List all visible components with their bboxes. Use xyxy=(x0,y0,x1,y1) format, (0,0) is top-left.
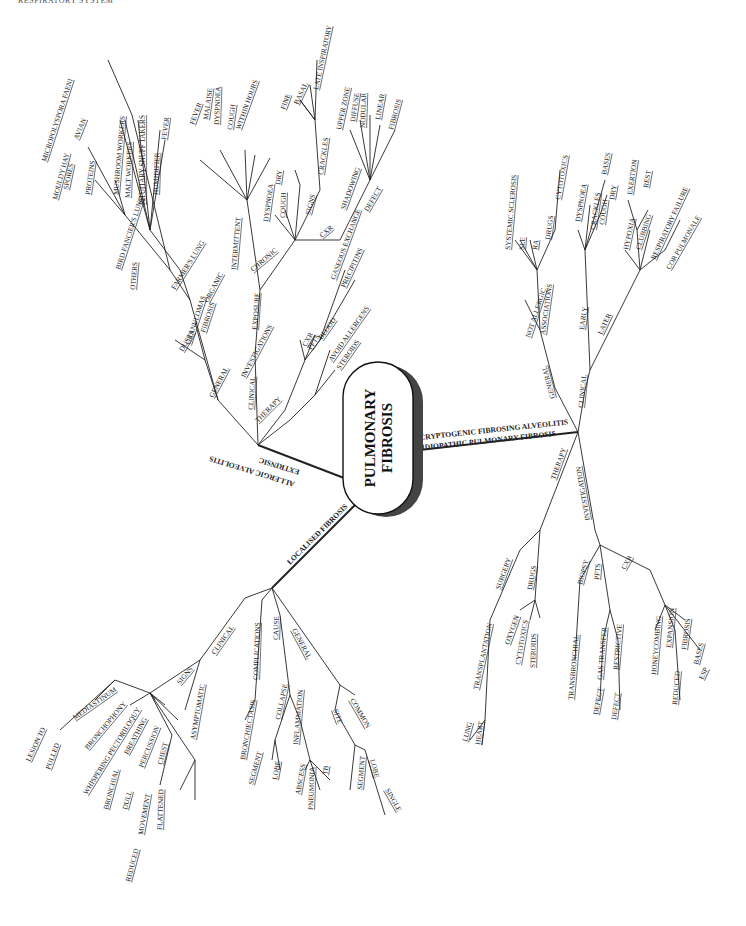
node-label: TRANSPLANTATION xyxy=(472,622,494,691)
label-underline xyxy=(671,218,701,271)
branch-line xyxy=(650,570,665,605)
branch-line xyxy=(108,60,132,115)
node-label: GENERAL xyxy=(290,627,313,660)
node-label: WITHIN HOURS xyxy=(234,79,259,131)
node-label: LOBE xyxy=(368,758,381,779)
node-label: UPPER ZONE xyxy=(335,86,352,131)
center-title-line2: FIBROSIS xyxy=(379,403,395,473)
branch-line xyxy=(272,740,275,760)
node-label: FEVER xyxy=(188,101,203,125)
node-label: GENERAL xyxy=(208,366,231,399)
branch-line xyxy=(535,530,540,600)
node-label: CXR xyxy=(620,554,634,571)
branch-line xyxy=(200,598,245,660)
node-label: LINEAR xyxy=(374,93,386,121)
node-label: PITUITARY SNUFF TAKERS xyxy=(139,115,147,205)
node-label: SURGERY xyxy=(494,556,513,591)
node-label: DRUGS xyxy=(544,215,555,240)
node-label: SEGMENT xyxy=(247,750,264,785)
node-label: FINE xyxy=(279,92,292,110)
branch-line xyxy=(130,693,150,705)
branch-line xyxy=(600,545,610,610)
node-label: FIBROSIS xyxy=(680,618,692,650)
node-label: THERAPY xyxy=(254,395,284,425)
branch-line xyxy=(200,160,247,200)
center-capsule xyxy=(343,362,413,514)
node-label: CRACKLES xyxy=(317,137,330,175)
node-label: MOVEMENT xyxy=(137,792,152,835)
branch-line xyxy=(150,693,178,720)
node-label: HEART xyxy=(474,720,485,745)
branch-line xyxy=(180,760,195,790)
node-label: HONEYCOMBING xyxy=(650,616,663,676)
node-label: BIRD FANCIER'S LUNG xyxy=(114,196,145,271)
node-label: SHADOWING xyxy=(339,166,362,210)
label-underline xyxy=(48,80,75,163)
label-underline xyxy=(656,189,689,261)
node-label: INFLAMMATION xyxy=(292,688,305,745)
node-label: DEFECT xyxy=(363,185,384,213)
node-label: MICROPOLYSPORA FAENI xyxy=(40,77,75,163)
node-label: DULL xyxy=(121,790,134,811)
main-branch-label-lf: LOCALISED FIBROSIS xyxy=(285,502,349,566)
node-label: ABSCESS xyxy=(294,763,307,795)
branch-line xyxy=(260,240,295,290)
node-label: FARMER'S LUNG xyxy=(170,239,207,291)
node-label: ESP xyxy=(698,666,710,681)
branch-line xyxy=(285,360,305,410)
node-label: EARLY xyxy=(578,305,589,330)
branch-line xyxy=(625,250,640,270)
node-label: GAS TRANSFER xyxy=(596,627,609,680)
node-label: COLLAPSE xyxy=(274,683,290,721)
node-label: LUNG xyxy=(461,721,474,742)
branch-line xyxy=(315,370,335,395)
branch-line xyxy=(115,680,150,693)
branch-line xyxy=(272,588,340,685)
node-label: COMMON xyxy=(348,697,372,730)
branch-line xyxy=(272,588,280,615)
main-branch-lf xyxy=(272,500,360,588)
branch-line xyxy=(360,120,370,180)
branch-line xyxy=(295,170,300,185)
node-label: BASES xyxy=(600,152,612,176)
node-label: PROTEINS xyxy=(84,160,97,195)
node-label: TRANSBRONCHIAL xyxy=(567,634,581,700)
branch-line xyxy=(370,130,395,180)
node-label: SIGNS xyxy=(175,665,194,686)
node-label: TB xyxy=(321,765,331,776)
node-label: SINGLE xyxy=(383,787,403,814)
node-label: REDUCED xyxy=(124,848,141,883)
node-label: AVIAN xyxy=(72,116,88,140)
node-label: CYTOTOXICS xyxy=(554,154,570,200)
node-label: ORGANIC xyxy=(203,271,226,304)
branch-line xyxy=(535,600,540,618)
branch-line xyxy=(247,200,260,290)
node-label: RESPIRATORY FAILURE xyxy=(650,185,691,261)
branch-line xyxy=(520,530,540,550)
node-label: EXERTION xyxy=(626,158,639,195)
central-node: PULMONARY FIBROSIS xyxy=(343,362,423,517)
node-label: SYSTEMIC SCLEROSIS xyxy=(504,174,519,250)
branch-line xyxy=(220,150,247,200)
node-label: DYSPNOEA xyxy=(262,182,275,222)
branch-line xyxy=(595,530,600,545)
node-label: DYSPNOEA xyxy=(574,182,589,222)
node-label: FIBROSIS xyxy=(387,98,403,131)
branch-line xyxy=(370,125,380,180)
branch-line xyxy=(290,395,315,420)
branch-line xyxy=(150,660,200,693)
mind-map: EXTRINSICALLERGIC ALVEOLITISCRYPTOGENIC … xyxy=(0,0,746,926)
node-label: EXPANSION xyxy=(665,607,677,648)
branch-line xyxy=(350,745,355,790)
branch-line xyxy=(355,745,365,750)
node-label: LESION TO xyxy=(25,726,48,763)
node-label: DEFECT xyxy=(592,687,605,716)
node-label: BIOPSY xyxy=(576,558,591,586)
branch-line xyxy=(540,432,578,530)
branch-line xyxy=(280,615,290,695)
branch-line xyxy=(340,685,355,695)
branch-line xyxy=(245,150,247,200)
node-label: GENERAL xyxy=(541,365,557,399)
center-title-line1: PULMONARY xyxy=(362,389,378,488)
branch-line xyxy=(335,685,340,710)
